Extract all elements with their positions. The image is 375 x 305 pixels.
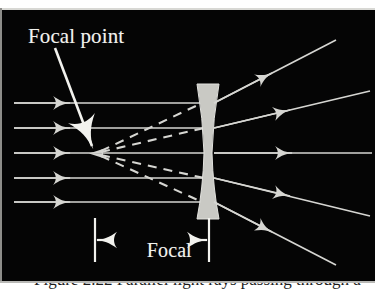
outgoing-ray-1-arrow	[214, 73, 272, 103]
diagram-panel: Focal point Focal length	[0, 8, 375, 283]
figure-caption: Figure 2.22 Parallel light rays passing …	[34, 283, 344, 290]
optics-figure: Focal point Focal length Figure 2.22 Par…	[0, 0, 375, 305]
virtual-ray-4	[101, 156, 202, 202]
figure-caption-strip: Figure 2.22 Parallel light rays passing …	[0, 283, 375, 305]
virtual-ray-2	[101, 128, 204, 152]
outgoing-ray-4-arrow	[214, 178, 290, 196]
concave-lens	[197, 84, 219, 219]
virtual-ray-3	[101, 155, 204, 178]
outgoing-ray-5-arrow	[214, 202, 272, 232]
focal-point-pointer-arrow	[55, 48, 92, 146]
focal-length-label: Focal length	[108, 220, 200, 283]
outgoing-ray-2-arrow	[214, 110, 290, 128]
virtual-ray-1	[101, 103, 202, 151]
incoming-ray-group	[14, 103, 210, 202]
focal-point-label: Focal point	[28, 26, 124, 47]
outgoing-ray-group	[214, 40, 372, 265]
focal-point-marker	[89, 149, 103, 158]
focal-length-label-line1: Focal	[147, 239, 192, 261]
